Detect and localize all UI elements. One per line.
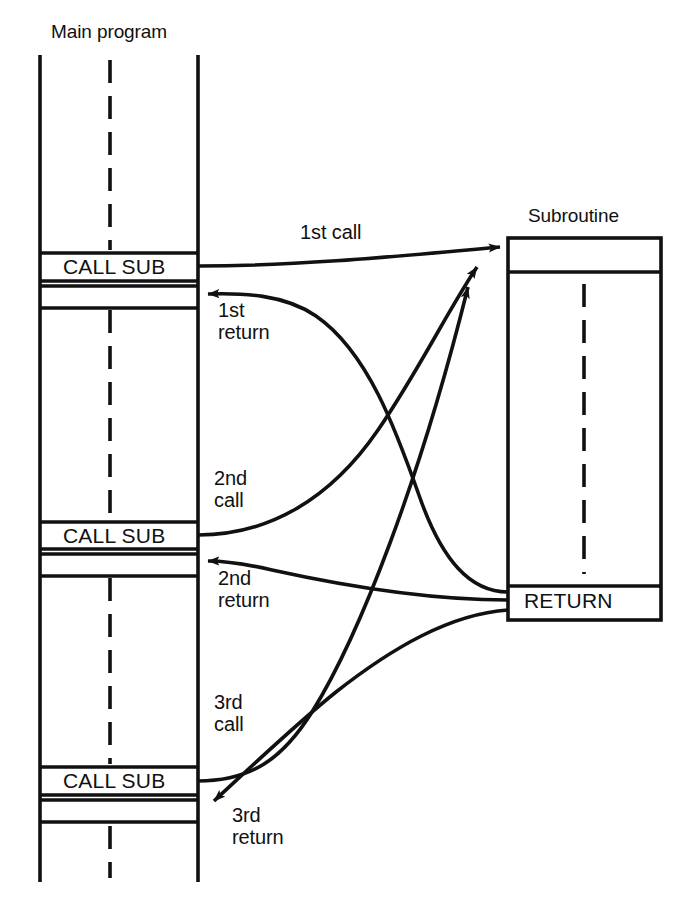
edge-label-return-2-line1: 2nd (218, 567, 251, 589)
call-sub-label-2: CALL SUB (63, 525, 165, 548)
call-sub-label-1: CALL SUB (63, 256, 165, 279)
edge-label-call-3-line2: call (214, 713, 244, 735)
edge-label-return-1: 1streturn (218, 300, 270, 343)
call-sub-label-3: CALL SUB (63, 770, 165, 793)
edge-label-return-3: 3rdreturn (232, 805, 284, 848)
edge-label-call-2-line2: call (214, 489, 244, 511)
edge-label-call-2: 2ndcall (214, 468, 247, 511)
edge-label-call-3: 3rdcall (214, 692, 244, 735)
subroutine-flow-diagram: Main program Subroutine CALL SUB CALL SU… (0, 0, 693, 912)
edge-label-return-1-line2: return (218, 321, 270, 343)
edge-label-return-2-line2: return (218, 589, 270, 611)
main-program-title: Main program (51, 22, 167, 43)
edge-label-return-2: 2ndreturn (218, 568, 270, 611)
edge-label-return-3-line1: 3rd (232, 804, 261, 826)
edge-return-3 (214, 610, 508, 801)
return-label: RETURN (524, 590, 613, 613)
subroutine-title: Subroutine (528, 206, 619, 227)
edge-label-return-1-line1: 1st (218, 299, 244, 321)
edge-call-1 (198, 247, 500, 266)
edge-label-call-3-line1: 3rd (214, 691, 243, 713)
edge-label-call-2-line1: 2nd (214, 467, 247, 489)
main-program-rails (40, 55, 198, 882)
edge-label-call-1: 1st call (300, 222, 361, 244)
edge-label-return-3-line2: return (232, 826, 284, 848)
